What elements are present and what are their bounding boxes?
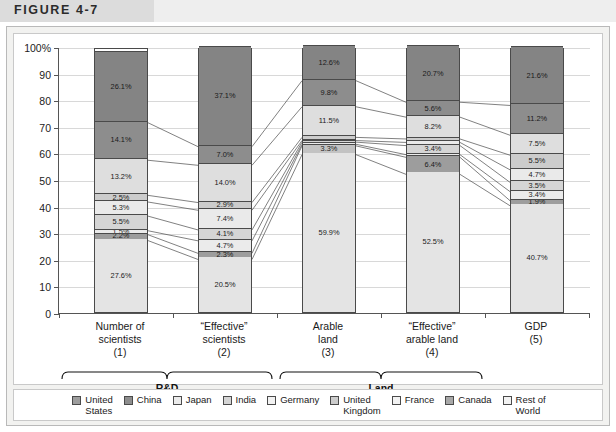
bar-segment[interactable]: 5.3%: [95, 200, 147, 214]
bar-segment[interactable]: 2.5%: [95, 193, 147, 200]
legend-item[interactable]: Germany: [267, 395, 319, 406]
bar-segment[interactable]: 20.5%: [199, 257, 251, 312]
bar-segment[interactable]: 11.2%: [511, 103, 563, 133]
bar-segment[interactable]: 2.3%: [199, 251, 251, 257]
bar-segment[interactable]: 14.1%: [95, 121, 147, 159]
bar-segment[interactable]: 7.5%: [511, 133, 563, 153]
x-axis-tick: [589, 313, 590, 318]
x-axis-category-line: arable land: [377, 333, 487, 346]
bar-segment[interactable]: [303, 139, 355, 141]
bar-segment[interactable]: 3.4%: [511, 190, 563, 199]
bar-segment-value-label: 12.6%: [319, 59, 340, 66]
x-axis-category-line: (3): [273, 346, 383, 359]
stacked-bar[interactable]: 52.5%6.4%3.4%8.2%5.6%20.7%: [406, 48, 460, 313]
legend-swatch-icon: [445, 396, 454, 405]
stacked-bar[interactable]: 40.7%1.9%3.4%3.5%4.7%5.5%7.5%11.2%21.6%: [510, 48, 564, 313]
bar-segment[interactable]: 4.7%: [511, 168, 563, 181]
bar-segment[interactable]: 37.1%: [199, 46, 251, 145]
bar-segment[interactable]: 4.1%: [199, 228, 251, 239]
legend-item[interactable]: India: [223, 395, 257, 406]
bar-segment[interactable]: 59.9%: [303, 153, 355, 312]
bar-segment[interactable]: 21.6%: [511, 46, 563, 103]
x-axis-tick: [59, 313, 60, 318]
bar-segment-value-label: 5.5%: [113, 218, 130, 225]
y-axis-tick-label: 20: [39, 255, 51, 267]
bar-segment[interactable]: 11.5%: [303, 105, 355, 136]
bar-segment-value-label: 40.7%: [527, 254, 548, 261]
legend-item[interactable]: Japan: [173, 395, 212, 406]
bar-segment[interactable]: [303, 140, 355, 142]
x-axis-category-label: Arableland(3): [273, 320, 383, 359]
bar-segment[interactable]: 27.6%: [95, 239, 147, 312]
bar-segment[interactable]: 14.0%: [199, 163, 251, 200]
legend-item[interactable]: UnitedKingdom: [330, 395, 381, 417]
legend-label: France: [405, 395, 435, 406]
bar-segment[interactable]: [407, 153, 459, 156]
bar-segment[interactable]: 26.1%: [95, 51, 147, 120]
x-axis-category-label: “Effective”scientists(2): [169, 320, 279, 359]
x-axis-category-line: Number of: [65, 320, 175, 333]
bar-segment-value-label: 26.1%: [111, 83, 132, 90]
connector-line: [148, 231, 198, 241]
x-axis-tick: [277, 313, 278, 318]
bar-segment[interactable]: [303, 142, 355, 144]
bar-segment[interactable]: 5.5%: [95, 214, 147, 229]
figure-page: FIGURE 4-7 0102030405060708090100%27.6%2…: [0, 0, 616, 432]
legend-swatch-icon: [392, 396, 401, 405]
chart-panel: 0102030405060708090100%27.6%2.2%1.5%5.5%…: [6, 26, 610, 426]
x-axis-tick: [485, 313, 486, 318]
x-axis-tick: [173, 313, 174, 318]
bar-segment[interactable]: 3.4%: [407, 144, 459, 153]
stacked-bar[interactable]: 59.9%3.3%11.5%9.8%12.6%: [302, 48, 356, 313]
x-axis-category-line: Arable: [273, 320, 383, 333]
y-axis-tick-label: 90: [39, 69, 51, 81]
bar-segment[interactable]: 40.7%: [511, 204, 563, 312]
bar-segment[interactable]: 1.9%: [511, 199, 563, 204]
bar-segment[interactable]: 5.5%: [511, 153, 563, 168]
connector-line: [252, 107, 302, 166]
figure-number-label: FIGURE 4-7: [14, 3, 99, 17]
connector-line: [252, 81, 302, 147]
bar-segment[interactable]: 7.4%: [199, 208, 251, 228]
legend-item[interactable]: Rest ofWorld: [503, 395, 546, 417]
bar-segment[interactable]: 3.3%: [303, 144, 355, 153]
bar-segment[interactable]: [407, 140, 459, 143]
legend-item[interactable]: China: [124, 395, 162, 406]
bar-segment[interactable]: 12.6%: [303, 45, 355, 79]
bar-segment-value-label: 6.4%: [425, 161, 442, 168]
bar-segment[interactable]: [303, 135, 355, 138]
bar-segment[interactable]: 8.2%: [407, 115, 459, 137]
bar-segment-value-label: 59.9%: [319, 229, 340, 236]
legend-label: Canada: [458, 395, 491, 406]
bar-segment[interactable]: 3.5%: [511, 180, 563, 189]
bar-segment-value-label: 7.4%: [217, 215, 234, 222]
bar-segment[interactable]: 13.2%: [95, 158, 147, 193]
bar-segment[interactable]: 4.7%: [199, 239, 251, 252]
bar-segment[interactable]: 2.9%: [199, 201, 251, 209]
bar-segment[interactable]: 6.4%: [407, 155, 459, 172]
bar-segment[interactable]: 9.8%: [303, 79, 355, 105]
bar-segment-value-label: 5.5%: [529, 157, 546, 164]
bar-segment-value-label: 1.5%: [113, 229, 130, 233]
stacked-bar[interactable]: 20.5%2.3%4.7%4.1%7.4%2.9%14.0%7.0%37.1%: [198, 48, 252, 313]
connector-line: [460, 146, 510, 183]
y-axis-tick-label: 0: [45, 308, 51, 320]
bar-segment-value-label: 9.8%: [321, 89, 338, 96]
bar-segment[interactable]: 20.7%: [407, 45, 459, 100]
stacked-bar[interactable]: 27.6%2.2%1.5%5.5%5.3%2.5%13.2%14.1%26.1%: [94, 48, 148, 313]
bar-segment[interactable]: 5.6%: [407, 100, 459, 115]
legend-item[interactable]: UnitedStates: [72, 395, 112, 417]
bar-segment[interactable]: 2.2%: [95, 233, 147, 239]
legend-label: Rest ofWorld: [516, 395, 546, 417]
bar-segment[interactable]: 7.0%: [199, 145, 251, 164]
bar-segment[interactable]: 52.5%: [407, 172, 459, 312]
y-axis-tick-label: 100%: [24, 42, 51, 54]
bar-segment-value-label: 5.6%: [425, 105, 442, 112]
bar-segment[interactable]: [407, 137, 459, 140]
x-axis-category-label: “Effective”arable land(4): [377, 320, 487, 359]
legend-item[interactable]: France: [392, 395, 435, 406]
legend-label-line: Germany: [280, 395, 319, 406]
legend-item[interactable]: Canada: [445, 395, 491, 406]
bar-segment-value-label: 4.7%: [217, 242, 234, 249]
bar-segment[interactable]: 1.5%: [95, 229, 147, 233]
